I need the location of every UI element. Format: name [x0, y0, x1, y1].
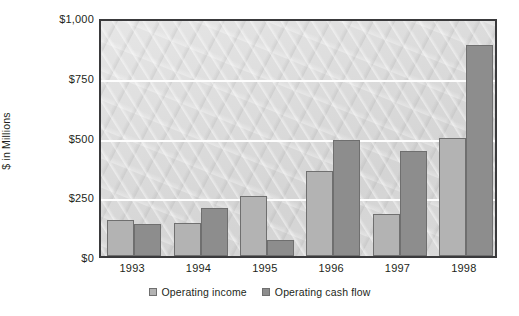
- y-axis-tick-labels: $0$250$500$750$1,000: [36, 14, 94, 262]
- bar: [400, 151, 427, 256]
- bar-group: [439, 21, 493, 256]
- legend-label: Operating income: [162, 286, 247, 298]
- x-axis-tick-label: 1994: [164, 262, 234, 274]
- bar: [373, 214, 400, 256]
- bar: [333, 140, 360, 256]
- bar: [466, 45, 493, 257]
- bar: [439, 138, 466, 256]
- x-axis-tick-label: 1997: [363, 262, 433, 274]
- x-axis-tick-labels: 199319941995199619971998: [99, 262, 497, 278]
- bar: [201, 208, 228, 256]
- bar: [306, 171, 333, 256]
- bar-group: [373, 21, 427, 256]
- x-axis-tick-label: 1996: [296, 262, 366, 274]
- y-axis-tick-label: $250: [36, 192, 94, 204]
- bar: [174, 223, 201, 256]
- chart-legend: Operating incomeOperating cash flow: [0, 286, 519, 298]
- plot-area: [99, 19, 497, 258]
- y-axis-tick-label: $500: [36, 133, 94, 145]
- bar-group: [306, 21, 360, 256]
- bar-group: [174, 21, 228, 256]
- x-axis-tick-label: 1998: [429, 262, 499, 274]
- y-axis-tick-label: $0: [36, 252, 94, 264]
- y-axis-title: $ in Millions: [0, 96, 12, 186]
- legend-swatch-icon: [149, 288, 157, 296]
- bar-group: [107, 21, 161, 256]
- bar: [267, 240, 294, 256]
- y-axis-tick-label: $1,000: [36, 13, 94, 25]
- bars-layer: [101, 21, 495, 256]
- bar-chart-figure: $ in Millions $0$250$500$750$1,000 19931…: [0, 0, 519, 316]
- legend-item[interactable]: Operating cash flow: [262, 286, 371, 298]
- bar: [107, 220, 134, 256]
- legend-label: Operating cash flow: [275, 286, 371, 298]
- x-axis-tick-label: 1993: [97, 262, 167, 274]
- legend-item[interactable]: Operating income: [149, 286, 247, 298]
- x-axis-tick-label: 1995: [230, 262, 300, 274]
- bar-group: [240, 21, 294, 256]
- bar: [240, 196, 267, 256]
- y-axis-tick-label: $750: [36, 73, 94, 85]
- legend-swatch-icon: [262, 288, 270, 296]
- bar: [134, 224, 161, 256]
